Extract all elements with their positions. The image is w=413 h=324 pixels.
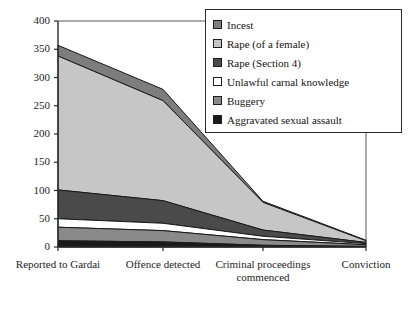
chart-legend: IncestRape (of a female)Rape (Section 4)… — [205, 9, 402, 133]
legend-item: Incest — [213, 15, 395, 34]
y-tick-label: 400 — [16, 15, 50, 26]
legend-swatch-icon — [213, 58, 222, 67]
y-tick-label: 250 — [16, 100, 50, 111]
y-tick-label: 350 — [16, 43, 50, 54]
legend-swatch-icon — [213, 39, 222, 48]
y-tick-label: 100 — [16, 185, 50, 196]
x-tick-label: Reported to Gardai — [0, 258, 118, 271]
y-tick-label: 0 — [16, 241, 50, 252]
y-tick-label: 150 — [16, 156, 50, 167]
x-tick-label: Offence detected — [103, 258, 223, 271]
legend-swatch-icon — [213, 96, 222, 105]
chart-root: 400350300250200150100500 Reported to Gar… — [0, 0, 413, 324]
legend-item: Aggravated sexual assault — [213, 110, 395, 129]
legend-label: Incest — [227, 19, 253, 31]
legend-label: Rape (of a female) — [227, 38, 309, 50]
x-tick-label: Conviction — [316, 258, 413, 271]
y-tick-label: 300 — [16, 72, 50, 83]
legend-label: Unlawful carnal knowledge — [227, 76, 349, 88]
legend-label: Rape (Section 4) — [227, 57, 301, 69]
legend-item: Buggery — [213, 91, 395, 110]
legend-item: Rape (of a female) — [213, 34, 395, 53]
legend-swatch-icon — [213, 20, 222, 29]
legend-label: Buggery — [227, 95, 265, 107]
x-tick-label: Criminal proceedings commenced — [215, 258, 311, 284]
legend-swatch-icon — [213, 115, 222, 124]
legend-swatch-icon — [213, 77, 222, 86]
legend-label: Aggravated sexual assault — [227, 114, 342, 126]
y-tick-label: 200 — [16, 128, 50, 139]
legend-item: Rape (Section 4) — [213, 53, 395, 72]
y-tick-label: 50 — [16, 213, 50, 224]
legend-item: Unlawful carnal knowledge — [213, 72, 395, 91]
